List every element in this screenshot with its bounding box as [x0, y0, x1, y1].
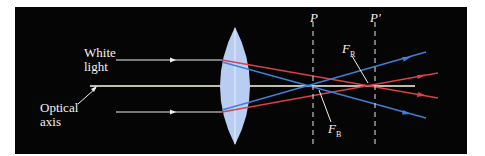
fb-leader — [319, 90, 331, 122]
plane-p-prime-label: P' — [370, 11, 381, 25]
focal-blue-label: FB — [328, 122, 341, 142]
optical-axis-label: Optical axis — [40, 101, 78, 129]
chromatic-aberration-diagram — [0, 0, 485, 156]
white-light-label: White light — [84, 46, 116, 74]
plane-p-label: P — [310, 11, 318, 25]
focal-red-label: FR — [342, 42, 355, 62]
